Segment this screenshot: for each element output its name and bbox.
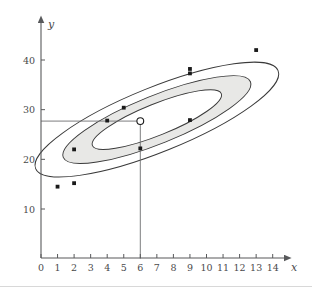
- x-tick-label: 0: [38, 262, 44, 273]
- data-point: [56, 185, 60, 189]
- x-tick-label: 14: [267, 262, 279, 273]
- y-axis-label: y: [47, 18, 55, 31]
- y-tick-label: 10: [23, 204, 35, 215]
- x-tick-label: 6: [137, 262, 143, 273]
- x-tick-label: 7: [154, 262, 160, 273]
- highlight-point: [137, 118, 144, 125]
- data-point: [188, 67, 192, 71]
- data-point: [105, 119, 109, 123]
- x-tick-label: 2: [71, 262, 77, 273]
- x-tick-label: 1: [55, 262, 61, 273]
- data-point: [188, 72, 192, 76]
- data-point: [72, 181, 76, 185]
- x-tick-label: 4: [104, 262, 110, 273]
- plot-canvas: 0123456789101112131410203040 x y: [0, 0, 312, 287]
- x-tick-label: 13: [250, 262, 262, 273]
- data-point: [138, 147, 142, 151]
- x-tick-label: 11: [217, 262, 229, 273]
- y-tick-label: 30: [23, 104, 35, 115]
- x-tick-label: 8: [170, 262, 176, 273]
- x-tick-label: 3: [88, 262, 94, 273]
- x-tick-label: 12: [234, 262, 246, 273]
- x-tick-label: 5: [121, 262, 127, 273]
- predicted-value-marker: [137, 118, 144, 125]
- data-point: [254, 48, 258, 52]
- x-axis-label: x: [291, 261, 298, 274]
- x-tick-label: 9: [187, 262, 193, 273]
- scatter-plot-with-confidence-ellipses: 0123456789101112131410203040 x y: [0, 0, 312, 287]
- data-point: [122, 106, 126, 110]
- y-tick-label: 40: [23, 55, 35, 66]
- y-tick-label: 20: [23, 154, 35, 165]
- x-tick-label: 10: [200, 262, 212, 273]
- confidence-band-shading: [54, 60, 259, 180]
- data-point: [72, 148, 76, 152]
- data-point: [188, 118, 192, 122]
